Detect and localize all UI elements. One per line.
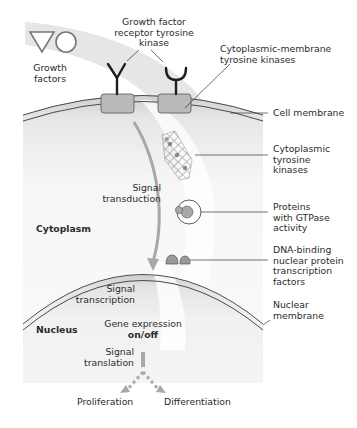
label-membrane-kinases: Cytoplasmic-membrane tyrosine kinases: [220, 44, 331, 65]
label-signal-transcription: Signal transcription: [70, 284, 135, 305]
receptor-kinase-box: [101, 94, 134, 113]
label-nucleus: Nucleus: [36, 325, 78, 336]
label-receptor-kinase: Growth factor receptor tyrosine kinase: [104, 17, 204, 49]
label-cell-membrane: Cell membrane: [273, 108, 344, 119]
membrane-kinase-box: [158, 94, 191, 113]
label-proliferation: Proliferation: [77, 397, 133, 408]
label-cytoplasm: Cytoplasm: [36, 224, 91, 235]
label-differentiation: Differentiation: [164, 397, 231, 408]
label-gene-expression: Gene expression on/off: [103, 319, 183, 340]
label-gtpase-proteins: Proteins with GTPase activity: [273, 202, 330, 234]
label-cytoplasmic-kinases: Cytoplasmic tyrosine kinases: [273, 144, 330, 176]
label-nuclear-membrane: Nuclear membrane: [273, 300, 324, 321]
label-growth-factors: Growth factors: [25, 63, 75, 84]
label-signal-transduction: Signal transduction: [96, 183, 161, 204]
signal-translation-bar: [141, 352, 145, 367]
circle-growth-factor-icon: [56, 32, 76, 52]
label-dna-binding: DNA-binding nuclear protein transcriptio…: [273, 245, 344, 287]
label-signal-translation: Signal translation: [80, 347, 134, 368]
